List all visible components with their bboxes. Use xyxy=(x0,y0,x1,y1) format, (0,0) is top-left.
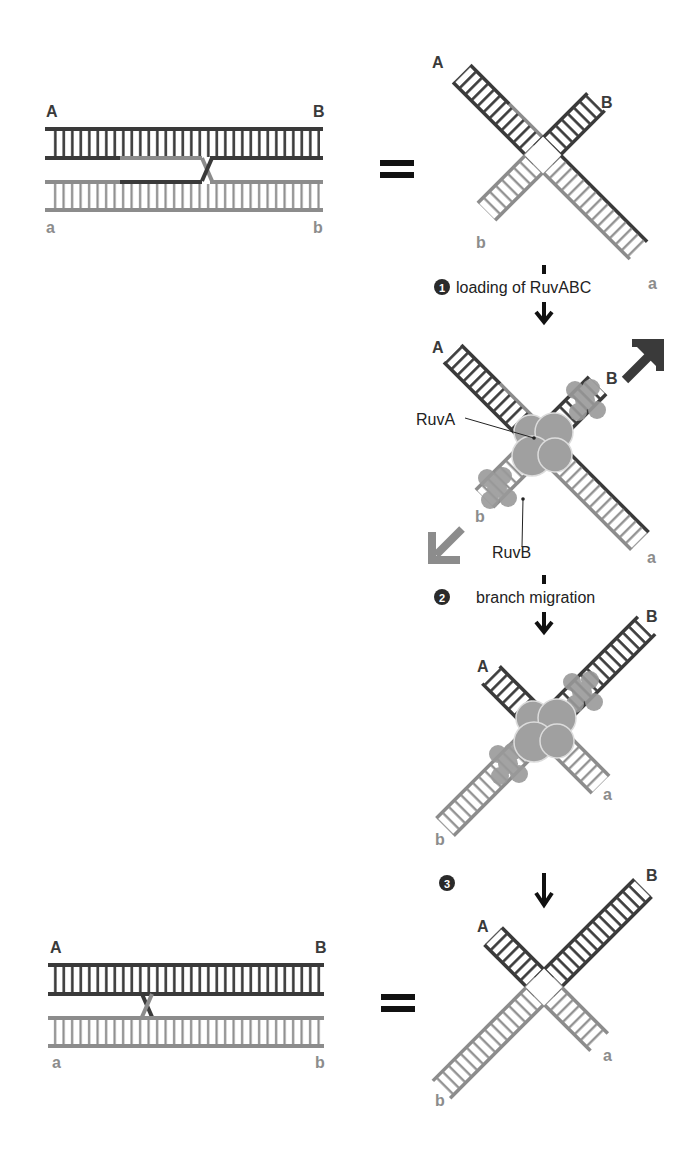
step-label: branch migration xyxy=(476,589,595,606)
label-b: b xyxy=(435,1092,445,1109)
label-B: B xyxy=(313,103,325,120)
arrow-down-left-icon xyxy=(432,529,462,560)
label-A: A xyxy=(46,103,58,120)
step-2: 2 branch migration xyxy=(434,575,595,632)
arrow-down-icon xyxy=(536,873,552,905)
label-B: B xyxy=(315,939,327,956)
top-linear-duplex: A B a b xyxy=(45,103,325,236)
step-number: 3 xyxy=(444,878,450,890)
ruvA-tetramer xyxy=(512,413,573,476)
label-b: b xyxy=(435,831,445,848)
label-A: A xyxy=(477,658,489,675)
label-a: a xyxy=(603,786,612,803)
label-a: a xyxy=(52,1054,61,1071)
label-b: b xyxy=(315,1054,325,1071)
step-number: 2 xyxy=(439,592,445,604)
ruvA-tetramer xyxy=(514,699,576,762)
arrow-down-icon xyxy=(536,302,552,322)
label-a: a xyxy=(603,1047,612,1064)
equals-sign-top xyxy=(380,160,414,178)
step-1: 1 loading of RuvABC xyxy=(434,265,591,322)
label-b: b xyxy=(313,219,323,236)
ruvA-label: RuvA xyxy=(416,411,455,428)
arrow-up-right-icon xyxy=(625,343,660,380)
bottom-linear-duplex: A B a b xyxy=(48,939,327,1071)
label-b: b xyxy=(476,234,486,251)
label-a: a xyxy=(46,219,55,236)
label-A: A xyxy=(477,918,489,935)
holliday-junction-1: A B b a xyxy=(432,54,657,292)
holliday-junction-3: A B a b xyxy=(435,608,658,848)
label-A: A xyxy=(432,339,444,356)
label-A: A xyxy=(432,54,444,71)
label-B: B xyxy=(646,608,658,625)
label-b: b xyxy=(475,508,485,525)
step-number: 1 xyxy=(439,282,445,294)
step-3: 3 xyxy=(439,873,552,905)
label-a: a xyxy=(648,275,657,292)
label-A: A xyxy=(50,939,62,956)
ruvB-label: RuvB xyxy=(492,544,531,561)
holliday-junction-2: RuvA RuvB A B b a xyxy=(416,339,660,566)
equals-sign-bottom xyxy=(381,994,415,1012)
label-B: B xyxy=(601,94,613,111)
label-B: B xyxy=(646,867,658,884)
label-a: a xyxy=(647,549,656,566)
label-B: B xyxy=(606,370,618,387)
arrow-down-icon xyxy=(536,612,552,632)
step-label: loading of RuvABC xyxy=(456,279,591,296)
